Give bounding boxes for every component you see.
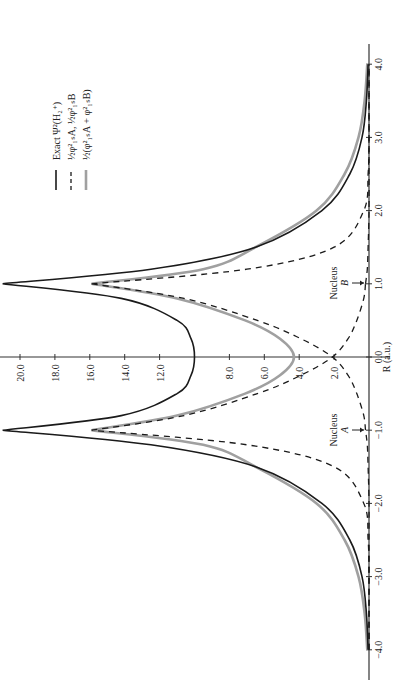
value-tick-label: 18.0: [50, 364, 61, 382]
r-tick-label: 4.0: [373, 58, 384, 71]
value-tick-label: 20.0: [15, 364, 26, 382]
arrow-icon: [360, 281, 364, 286]
legend-label-dashed: ½φ²₁ₛA, ½φ²₁ₛB: [66, 93, 77, 160]
value-axis-ticks: 2.04.06.08.012.014.016.018.020.0: [15, 354, 340, 382]
r-tick-label: 1.0: [373, 278, 384, 291]
r-tick-label: 3.0: [373, 131, 384, 144]
value-tick-label: 8.0: [224, 367, 235, 380]
nucleus-b-letter: B: [339, 280, 350, 286]
value-tick-label: 14.0: [120, 364, 131, 382]
r-tick-label: −3.0: [373, 568, 384, 586]
legend-label-gray: ½(φ²₁ₛA + φ²₁ₛB): [81, 89, 93, 160]
nucleus-b-label: Nucleus: [328, 267, 339, 300]
value-tick-label: 12.0: [155, 364, 166, 382]
r-axis-title: R (a.u.): [381, 342, 393, 372]
nucleus-a-letter: A: [339, 426, 350, 434]
value-tick-label: 6.0: [259, 367, 270, 380]
r-tick-label: −4.0: [373, 641, 384, 659]
r-tick-label: −2.0: [373, 494, 384, 512]
value-tick-label: 2.0: [329, 367, 340, 380]
r-tick-label: 2.0: [373, 204, 384, 217]
nucleus-a-label: Nucleus: [328, 414, 339, 447]
value-tick-label: 16.0: [85, 364, 96, 382]
legend-label-exact: Exact Ψ²(H₂⁺): [51, 102, 63, 160]
nucleus-b-annotation: Nucleus B: [328, 267, 364, 300]
r-tick-label: −1.0: [373, 421, 384, 439]
nucleus-a-annotation: Nucleus A: [328, 414, 364, 447]
legend: Exact Ψ²(H₂⁺) ½φ²₁ₛA, ½φ²₁ₛB ½(φ²₁ₛA + φ…: [51, 89, 93, 190]
chart-canvas: −4.0−3.0−2.0−1.00.01.02.03.04.0 2.04.06.…: [0, 0, 399, 696]
arrow-icon: [360, 428, 364, 433]
